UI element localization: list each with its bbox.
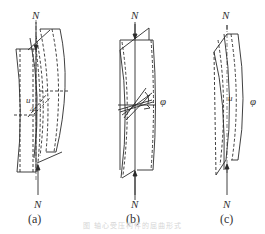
panel-c-top-force-label: N [222,10,229,21]
panel-a-drawing [14,20,70,195]
panel-a-top-force-label: N [32,10,39,21]
panel-c-rotation-label: φ [250,96,256,107]
panel-b-drawing [118,22,156,200]
panel-c-drawing [214,25,243,195]
panel-c-bottom-force-label: N [223,199,230,210]
buckling-modes-figure: N N u ΔL (a) N N φ (b) N N u φ (c) 图 轴心受… [0,0,265,234]
figure-caption: 图 轴心受压构件的屈曲形式 [0,220,265,230]
panel-b-rotation-label: φ [160,96,166,107]
panel-b-top-force-label: N [131,10,138,21]
panel-b-bottom-force-label: N [131,199,138,210]
panel-c-displacement-label: u [228,94,233,103]
panel-a-bottom-force-label: N [34,199,41,210]
panel-a-displacement-label: u [26,96,31,105]
panel-a-increment-label: ΔL [30,106,38,113]
